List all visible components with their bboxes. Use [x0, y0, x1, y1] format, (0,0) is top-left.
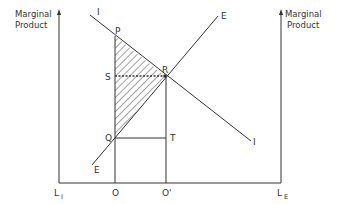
right-axis — [279, 9, 283, 183]
point-label-r: R — [162, 65, 168, 75]
curve-i-label-top: I — [97, 7, 100, 17]
left-axis-title-line1: Marginal — [15, 9, 52, 19]
point-label-s: S — [105, 72, 111, 82]
point-label-p: P — [115, 26, 121, 36]
curve-i-label-bottom: I — [253, 137, 256, 147]
left-axis — [57, 9, 61, 183]
point-label-t: T — [169, 133, 176, 143]
diagram-canvas: Marginal Product Marginal Product L I L … — [0, 0, 340, 204]
x-label-o: O — [112, 188, 119, 198]
point-label-q: Q — [105, 133, 112, 143]
origin-label-li-sub: I — [61, 193, 63, 201]
right-axis-title-line2: Product — [287, 20, 320, 30]
curve-e-label-bottom: E — [94, 165, 100, 175]
origin-label-li: L — [54, 188, 59, 198]
origin-label-le: L — [277, 188, 282, 198]
origin-label-le-sub: E — [284, 193, 288, 201]
right-axis-title-line1: Marginal — [285, 9, 322, 19]
curve-e-label-top: E — [221, 11, 227, 21]
x-label-o-prime: O' — [162, 188, 172, 198]
left-axis-title-line2: Product — [15, 20, 48, 30]
